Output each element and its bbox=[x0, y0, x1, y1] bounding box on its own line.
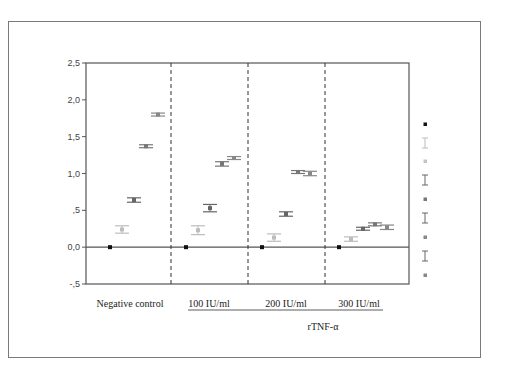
data-marker bbox=[184, 245, 188, 249]
y-tick-label: 0,0 bbox=[67, 242, 80, 252]
data-marker bbox=[144, 144, 148, 148]
y-tick-label: 1,0 bbox=[67, 169, 80, 179]
category-label: 300 IU/ml bbox=[338, 298, 380, 309]
category-label: Negative control bbox=[97, 298, 164, 309]
data-marker bbox=[337, 245, 341, 249]
data-marker bbox=[120, 227, 124, 231]
legend bbox=[422, 123, 428, 278]
data-marker bbox=[208, 206, 212, 210]
category-label: 100 IU/ml bbox=[188, 298, 230, 309]
legend-marker-icon bbox=[424, 274, 428, 278]
data-marker bbox=[260, 245, 264, 249]
y-tick-label: 2,0 bbox=[67, 95, 80, 105]
data-marker bbox=[373, 222, 377, 226]
data-marker bbox=[196, 228, 200, 232]
legend-marker-icon bbox=[424, 160, 428, 164]
data-marker bbox=[296, 170, 300, 174]
data-marker bbox=[132, 198, 136, 202]
legend-marker-icon bbox=[424, 198, 428, 202]
data-marker bbox=[385, 225, 389, 229]
plot-border bbox=[86, 63, 409, 284]
x-axis-group-label: rTNF-α bbox=[308, 321, 340, 332]
data-marker bbox=[232, 156, 236, 160]
plot-area bbox=[86, 63, 409, 284]
data-marker bbox=[308, 172, 312, 176]
data-marker bbox=[108, 245, 112, 249]
data-marker bbox=[156, 113, 160, 117]
data-marker bbox=[284, 212, 288, 216]
category-label: 200 IU/ml bbox=[265, 298, 307, 309]
data-marker bbox=[361, 227, 365, 231]
data-points bbox=[108, 113, 394, 250]
chart: -,50,0,51,01,52,02,5 Negative control100… bbox=[0, 0, 510, 380]
category-labels: Negative control100 IU/ml200 IU/ml300 IU… bbox=[97, 298, 383, 310]
data-marker bbox=[272, 236, 276, 240]
data-marker bbox=[220, 162, 224, 166]
y-tick-label: 1,5 bbox=[67, 132, 80, 142]
y-tick-label: 2,5 bbox=[67, 58, 80, 68]
y-axis: -,50,0,51,01,52,02,5 bbox=[67, 58, 86, 289]
legend-marker-icon bbox=[424, 236, 428, 240]
legend-marker-icon bbox=[424, 123, 428, 127]
y-tick-label: ,5 bbox=[72, 205, 80, 215]
data-marker bbox=[349, 237, 353, 241]
y-tick-label: -,5 bbox=[69, 279, 80, 289]
